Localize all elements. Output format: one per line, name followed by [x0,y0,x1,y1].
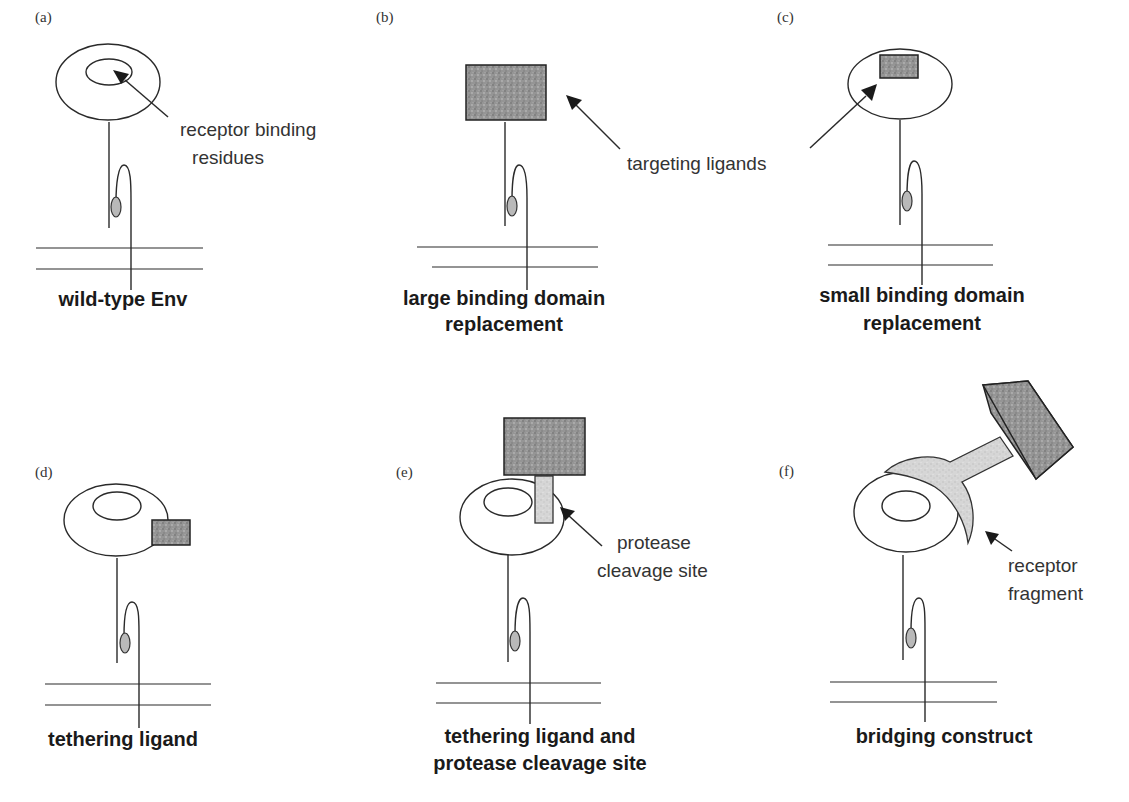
panel-a-caption: wild-type Env [58,288,189,310]
fusion-peptide-oval [510,631,520,651]
receptor-binding-site [882,491,930,521]
arrow-protease-site [568,515,602,546]
receptor-binding-site [86,59,132,85]
tm-hairpin [911,598,925,722]
fusion-peptide-oval [906,628,916,648]
panel-c-label: (c) [777,9,794,26]
tethered-ligand-block [152,520,190,545]
annotation-receptor-fragment-1: receptor [1008,555,1078,576]
tethered-ligand-block [504,418,585,475]
annotation-receptor-binding-1: receptor binding [180,119,316,140]
panel-b-label: (b) [376,9,394,26]
panel-c-caption-2: replacement [863,312,981,334]
arrowhead-icon [985,531,999,545]
panel-f-label: (f) [779,463,794,480]
panel-b-caption-1: large binding domain [403,287,605,309]
panel-a: (a) receptor binding residues wild-type … [35,9,316,310]
fusion-peptide-oval [507,196,517,216]
panel-e-caption-2: protease cleavage site [433,752,646,774]
tm-hairpin [512,165,527,290]
small-ligand-block [880,55,918,78]
figure-canvas: (a) receptor binding residues wild-type … [0,0,1129,802]
panel-d: (d) tethering ligand [35,464,211,750]
fusion-peptide-oval [111,197,121,217]
panel-b-caption-2: replacement [445,313,563,335]
panel-e: (e) protease cleavage site tethering lig… [396,418,708,774]
protease-cleavage-linker [535,476,553,523]
arrow-targeting-ligand-b [575,104,620,149]
panel-d-label: (d) [35,464,53,481]
annotation-protease-2: cleavage site [597,560,708,581]
panel-a-label: (a) [35,9,52,26]
fusion-peptide-oval [902,191,912,211]
large-ligand-block [466,65,546,120]
tm-hairpin [515,598,530,724]
annotation-targeting-ligands: targeting ligands [627,153,766,174]
tm-hairpin [116,165,131,290]
tm-hairpin [124,602,139,728]
fusion-peptide-oval [120,633,130,653]
receptor-binding-site [93,492,141,520]
panel-b: (b) large binding domain replacement [376,9,620,335]
panel-e-label: (e) [396,464,413,481]
tm-hairpin [907,161,922,285]
panel-d-caption: tethering ligand [48,728,198,750]
annotation-receptor-binding-2: residues [192,147,264,168]
annotation-protease-1: protease [617,532,691,553]
panel-c-caption-1: small binding domain [819,284,1025,306]
panel-f: (f) receptor fragment bridging construct [779,381,1084,747]
arrow-targeting-ligand-c [810,96,866,148]
panel-f-caption: bridging construct [856,725,1033,747]
panel-e-caption-1: tethering ligand and [444,725,635,747]
receptor-binding-site [484,488,532,516]
panel-c: (c) small binding domain replacement [777,9,1025,334]
annotation-receptor-fragment-2: fragment [1008,583,1084,604]
